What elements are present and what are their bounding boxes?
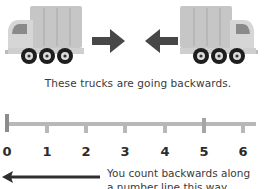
number-line — [0, 112, 276, 142]
left-truck-icon — [0, 0, 100, 66]
tick-label-0: 0 — [0, 144, 14, 159]
tick-label-2: 2 — [79, 144, 93, 159]
tick-label-4: 4 — [158, 144, 172, 159]
tick-label-5: 5 — [197, 144, 211, 159]
tick-label-3: 3 — [118, 144, 132, 159]
backwards-arrow-icon — [2, 170, 100, 184]
trucks-caption: These trucks are going backwards. — [0, 77, 276, 89]
note-line-2: a number line this way. — [107, 181, 229, 189]
note-line-1: You count backwards along — [107, 167, 250, 180]
right-arrow-icon — [90, 26, 128, 56]
tick-label-1: 1 — [40, 144, 54, 159]
left-arrow-icon — [142, 26, 180, 56]
right-truck-icon — [180, 0, 276, 66]
tick-label-6: 6 — [236, 144, 250, 159]
